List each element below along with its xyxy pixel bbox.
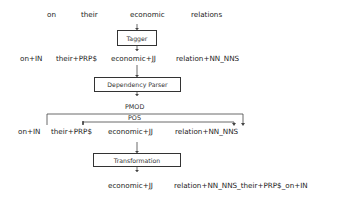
tagged-token-their: their+PRP$ xyxy=(56,54,97,63)
tagged-token-relation: relation+NN_NNS xyxy=(176,54,239,63)
tagger-box: Tagger xyxy=(117,30,157,46)
parsed-token-relation: relation+NN_NNS xyxy=(175,127,238,136)
connector-lines xyxy=(0,0,352,201)
output-token-economic: economic+JJ xyxy=(108,181,153,190)
transformation-box: Transformation xyxy=(93,153,181,167)
parsed-token-on: on+IN xyxy=(18,127,40,136)
output-token-relation: relation+NN_NNS_their+PRP$_on+IN xyxy=(174,181,308,190)
tagged-token-on: on+IN xyxy=(20,54,42,63)
input-word-on: on xyxy=(47,10,56,19)
dependency-label-pmod: PMOD xyxy=(125,103,144,111)
dependency-label-pos: POS xyxy=(128,114,141,122)
tagged-token-economic: economic+JJ xyxy=(111,54,156,63)
parsed-token-their: their+PRP$ xyxy=(51,127,92,136)
input-word-economic: economic xyxy=(130,10,165,19)
input-word-relations: relations xyxy=(191,10,222,19)
dependency-parser-box: Dependency Parser xyxy=(94,77,181,92)
input-word-their: their xyxy=(81,10,98,19)
parsed-token-economic: economic+JJ xyxy=(108,127,153,136)
